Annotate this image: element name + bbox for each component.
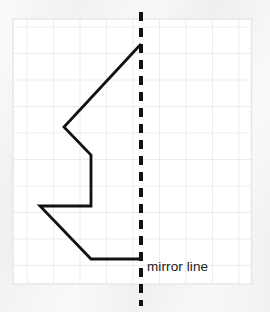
grid-group [13, 19, 252, 284]
grid-background [13, 19, 252, 284]
mirror-line-label: mirror line [147, 259, 208, 274]
diagram-canvas: mirror line [0, 0, 270, 312]
figure-svg [0, 0, 270, 312]
